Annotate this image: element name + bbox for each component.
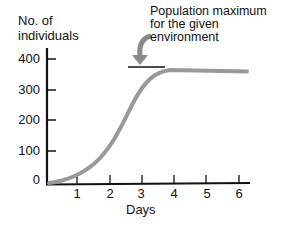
- y-ticks: [47, 59, 56, 151]
- x-tick-label: 4: [167, 186, 181, 201]
- y-tick-label: 400: [10, 51, 40, 66]
- arrow-head-icon: [132, 55, 148, 65]
- y-tick-label: 300: [10, 82, 40, 97]
- y-tick-label: 100: [10, 143, 40, 158]
- x-tick-label: 1: [70, 186, 84, 201]
- y-tick-label: 200: [10, 112, 40, 127]
- x-axis-label: Days: [126, 202, 156, 217]
- y-tick-label: 0: [10, 172, 40, 187]
- x-tick-label: 2: [103, 186, 117, 201]
- y-axis-label-line2: individuals: [18, 28, 79, 43]
- x-tick-label: 5: [200, 186, 214, 201]
- y-axis-label: No. of individuals: [18, 13, 79, 43]
- population-curve: [49, 70, 247, 183]
- y-axis-label-line1: No. of: [18, 13, 79, 28]
- annotation-text: Population maximum for the given environ…: [150, 5, 267, 44]
- x-tick-label: 3: [134, 186, 148, 201]
- x-tick-label: 6: [232, 186, 246, 201]
- annotation-line3: environment: [150, 31, 267, 44]
